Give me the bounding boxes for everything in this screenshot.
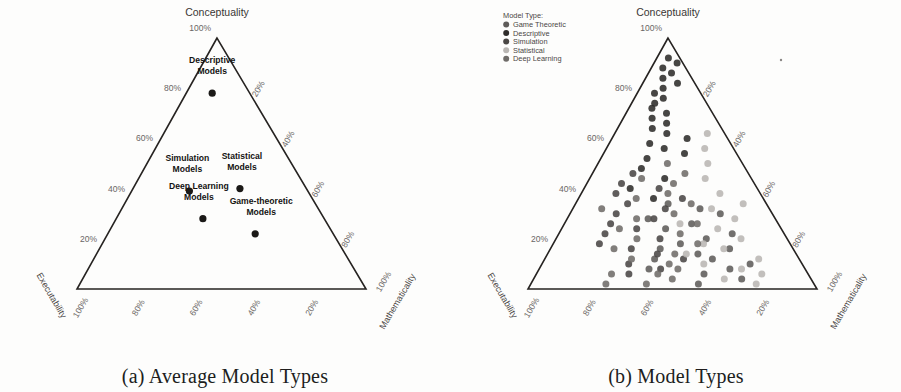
scatter-point — [669, 276, 676, 283]
tick-bottom-40-3: 40% — [696, 297, 713, 317]
scatter-point — [633, 195, 640, 202]
scatter-point — [666, 260, 673, 267]
scatter-point — [659, 75, 666, 82]
scatter-point — [677, 230, 684, 237]
scatter-point — [674, 80, 681, 87]
panel-a-caption: (a) Average Model Types — [0, 365, 450, 388]
point-label-line2: Models — [197, 66, 227, 76]
tick-right-60: 60% — [760, 179, 777, 199]
axis-title-executability: Executability — [35, 271, 69, 320]
scatter-point — [618, 180, 625, 187]
axis-title-conceptuality: Conceptuality — [636, 6, 700, 18]
scatter-point — [753, 281, 760, 288]
tick-left-40: 40% — [108, 184, 125, 194]
scatter-point — [646, 265, 653, 272]
scatter-point — [209, 90, 216, 97]
stray-speck — [780, 59, 782, 61]
legend-swatch-game-theoretic[interactable] — [503, 21, 509, 27]
tick-right-20: 20% — [701, 78, 718, 98]
scatter-point — [612, 190, 619, 197]
scatter-point — [650, 215, 657, 222]
tick-left-40: 40% — [559, 184, 576, 194]
scatter-point — [716, 190, 723, 197]
scatter-point — [644, 155, 651, 162]
tick-conceptuality-100: 100% — [189, 23, 211, 33]
legend-title: Model Type: — [503, 11, 543, 20]
tick-right-20: 20% — [250, 78, 267, 98]
figure-two-ternary-plots: Conceptuality100%20%40%60%80%20%40%60%80… — [0, 0, 901, 392]
scatter-point — [616, 225, 623, 232]
scatter-point — [701, 145, 708, 152]
scatter-point — [729, 230, 736, 237]
scatter-point — [738, 265, 745, 272]
scatter-point — [697, 205, 704, 212]
data-point-group: Deep LearningModels — [169, 181, 229, 223]
scatter-point — [199, 215, 206, 222]
scatter-point — [611, 245, 618, 252]
scatter-point — [671, 250, 678, 257]
tick-right-40: 40% — [279, 129, 296, 149]
point-label-line1: Descriptive — [189, 55, 236, 65]
scatter-point — [602, 281, 609, 288]
scatter-point — [709, 255, 716, 262]
point-label-line1: Deep Learning — [169, 181, 229, 191]
tick-conceptuality-100: 100% — [640, 23, 662, 33]
legend-swatch-statistical[interactable] — [503, 47, 509, 53]
scatter-point — [654, 270, 661, 277]
scatter-point — [700, 260, 707, 267]
scatter-point — [674, 265, 681, 272]
scatter-point — [628, 255, 635, 262]
scatter-point — [721, 276, 728, 283]
scatter-point — [649, 125, 656, 132]
tick-mathematicality-100: 100% — [825, 269, 845, 293]
tick-bottom-80-1: 80% — [581, 297, 598, 317]
scatter-point — [708, 205, 715, 212]
point-label-line2: Models — [184, 192, 214, 202]
scatter-point — [694, 220, 701, 227]
legend: Model Type:Game TheoreticDescriptiveSimu… — [503, 11, 566, 63]
scatter-point — [607, 220, 614, 227]
scatter-point — [694, 240, 701, 247]
scatter-point — [758, 270, 765, 277]
tick-bottom-60-2: 60% — [187, 297, 204, 317]
scatter-point — [747, 260, 754, 267]
scatter-point — [740, 200, 747, 207]
scatter-point — [646, 140, 653, 147]
tick-bottom-60-2: 60% — [638, 297, 655, 317]
legend-swatch-simulation[interactable] — [503, 39, 509, 45]
tick-right-60: 60% — [309, 179, 326, 199]
tick-bottom-20-4: 20% — [303, 297, 320, 317]
legend-swatch-descriptive[interactable] — [503, 30, 509, 36]
scatter-point — [664, 190, 671, 197]
scatter-point — [661, 175, 668, 182]
tick-bottom-80-1: 80% — [130, 297, 147, 317]
scatter-point — [662, 225, 669, 232]
scatter-point — [677, 240, 684, 247]
scatter-point — [651, 90, 658, 97]
scatter-point — [664, 160, 671, 167]
point-label-line1: Game-theoretic — [230, 196, 293, 206]
scatter-point — [681, 170, 688, 177]
scatter-point — [717, 210, 724, 217]
scatter-point — [671, 210, 678, 217]
tick-right-40: 40% — [730, 129, 747, 149]
scatter-point — [633, 235, 640, 242]
panel-b-model-types: Conceptuality100%20%40%60%80%20%40%60%80… — [451, 0, 901, 392]
point-label-line2: Models — [246, 207, 276, 217]
scatter-point — [701, 270, 708, 277]
scatter-point — [649, 115, 656, 122]
scatter-point — [679, 195, 686, 202]
scatter-point — [629, 170, 636, 177]
legend-label-deep-learning[interactable]: Deep Learning — [513, 54, 562, 63]
tick-left-20: 20% — [531, 234, 548, 244]
scatter-point — [236, 185, 243, 192]
tick-left-20: 20% — [80, 234, 97, 244]
legend-swatch-deep-learning[interactable] — [503, 56, 509, 62]
scatter-point — [638, 165, 645, 172]
scatter-point — [654, 250, 661, 257]
point-label-line1: Simulation — [165, 153, 209, 163]
scatter-point — [638, 175, 645, 182]
scatter-point — [694, 250, 701, 257]
scatter-point — [684, 135, 691, 142]
scatter-point — [596, 240, 603, 247]
